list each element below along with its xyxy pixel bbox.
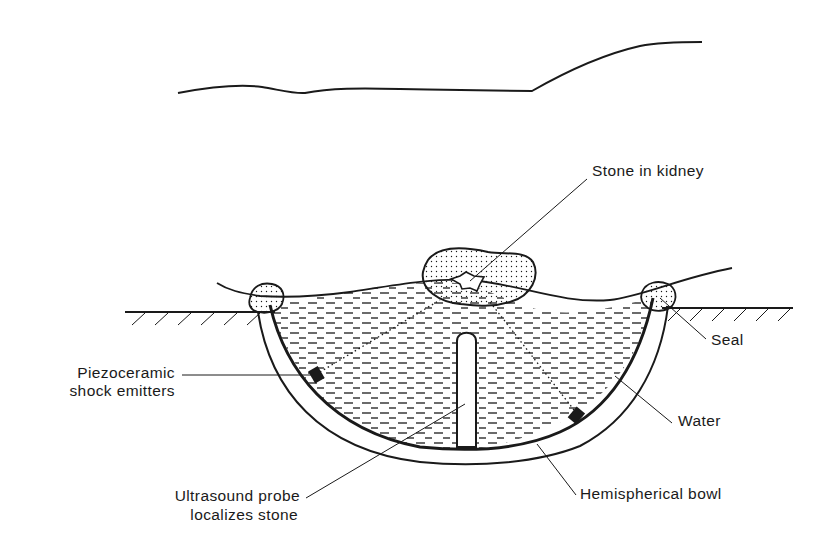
body-outline-top: [178, 42, 702, 93]
label-piezo-line2: shock emitters: [69, 382, 175, 399]
label-piezo-line1: Piezoceramic: [77, 364, 175, 381]
lithotripsy-diagram: Stone in kidney Seal Water Hemispherical…: [0, 0, 838, 545]
table-surface-left: [125, 312, 275, 325]
label-seal: Seal: [711, 331, 744, 348]
ultrasound-probe: [457, 333, 476, 447]
seal-left: [249, 284, 283, 313]
label-stone-in-kidney: Stone in kidney: [592, 162, 704, 179]
table-surface-right: [662, 308, 793, 321]
label-probe-line2: localizes stone: [190, 506, 298, 523]
label-water: Water: [678, 412, 721, 429]
seal-right: [641, 282, 675, 311]
label-hemispherical-bowl: Hemispherical bowl: [580, 485, 722, 502]
label-probe-line1: Ultrasound probe: [175, 487, 300, 504]
